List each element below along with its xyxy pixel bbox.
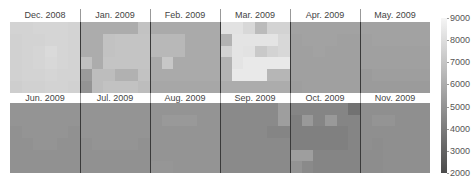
heatmap-cell (220, 150, 232, 162)
heatmap-cell (348, 103, 360, 115)
heatmap-cell (243, 103, 255, 115)
heatmap-cell (267, 126, 279, 138)
heatmap-cell (80, 115, 92, 127)
heatmap-cell (150, 46, 162, 58)
heatmap-cell (127, 115, 139, 127)
heatmap-cell (243, 150, 255, 162)
heatmap-cell (57, 81, 69, 93)
heatmap-cell (197, 161, 209, 173)
heatmap-cell (407, 81, 419, 93)
heatmap-cell (372, 57, 384, 69)
heatmap-cell (10, 46, 22, 58)
heatmap-cell (395, 81, 407, 93)
panel-separator (150, 22, 151, 93)
heatmap-cell (197, 138, 209, 150)
heatmap-cell (243, 81, 255, 93)
heatmap-cell (383, 34, 395, 46)
heatmap-cell (103, 103, 115, 115)
heatmap-cell (325, 150, 337, 162)
heatmap-cell (138, 69, 150, 81)
heatmap-cell (325, 115, 337, 127)
heatmap-cell (33, 115, 45, 127)
heatmap-cell (372, 126, 384, 138)
heatmap-cell (150, 138, 162, 150)
heatmap-cell (418, 126, 430, 138)
heatmap-cell (138, 150, 150, 162)
heatmap-cell (45, 69, 57, 81)
heatmap-cell (302, 57, 314, 69)
heatmap-cell (360, 69, 372, 81)
heatmap-panel: Jan. 2009 (80, 9, 150, 93)
heatmap-cell (150, 161, 162, 173)
heatmap-cell (313, 22, 325, 34)
heatmap-cell (185, 57, 197, 69)
heatmap-grid (150, 103, 220, 173)
heatmap-cell (57, 46, 69, 58)
heatmap-cell (267, 46, 279, 58)
heatmap-cell (173, 69, 185, 81)
heatmap-cell (127, 150, 139, 162)
heatmap-cell (372, 115, 384, 127)
heatmap-cell (138, 161, 150, 173)
heatmap-cell (337, 138, 349, 150)
heatmap-cell (80, 22, 92, 34)
heatmap-panel: Nov. 2009 (360, 93, 430, 173)
heatmap-cell (232, 69, 244, 81)
heatmap-cell (115, 103, 127, 115)
heatmap-cell (337, 115, 349, 127)
heatmap-cell (57, 69, 69, 81)
heatmap-cell (407, 22, 419, 34)
heatmap-cell (197, 57, 209, 69)
heatmap-cell (103, 138, 115, 150)
heatmap-cell (232, 81, 244, 93)
heatmap-cell (173, 81, 185, 93)
colorbar-tick (447, 62, 449, 63)
colorbar (441, 18, 447, 173)
heatmap-cell (243, 126, 255, 138)
heatmap-cell (220, 69, 232, 81)
heatmap-cell (103, 115, 115, 127)
heatmap-cell (80, 138, 92, 150)
heatmap-cell (68, 161, 80, 173)
heatmap-cell (407, 150, 419, 162)
heatmap-cell (208, 57, 220, 69)
heatmap-cell (162, 115, 174, 127)
heatmap-cell (197, 150, 209, 162)
heatmap-cell (348, 46, 360, 58)
heatmap-cell (383, 81, 395, 93)
heatmap-cell (325, 46, 337, 58)
heatmap-cell (162, 150, 174, 162)
colorbar-tick-label: 8000 (450, 35, 470, 45)
heatmap-cell (150, 22, 162, 34)
heatmap-cell (208, 81, 220, 93)
heatmap-cell (68, 57, 80, 69)
colorbar-tick-label: 5000 (450, 102, 470, 112)
heatmap-cell (68, 34, 80, 46)
heatmap-cell (185, 115, 197, 127)
heatmap-cell (290, 57, 302, 69)
heatmap-cell (243, 69, 255, 81)
heatmap-cell (57, 126, 69, 138)
heatmap-cell (22, 161, 34, 173)
panel-title: Mar. 2009 (220, 9, 290, 22)
heatmap-cell (197, 22, 209, 34)
heatmap-cell (360, 57, 372, 69)
heatmap-grid (10, 103, 80, 173)
heatmap-cell (302, 150, 314, 162)
heatmap-cell (267, 161, 279, 173)
panel-title: Jan. 2009 (80, 9, 150, 22)
heatmap-panel: Feb. 2009 (150, 9, 220, 93)
heatmap-cell (173, 126, 185, 138)
heatmap-cell (208, 22, 220, 34)
panel-separator (80, 22, 81, 93)
heatmap-cell (45, 138, 57, 150)
heatmap-cell (185, 161, 197, 173)
heatmap-cell (220, 46, 232, 58)
heatmap-cell (232, 103, 244, 115)
heatmap-cell (45, 150, 57, 162)
heatmap-grid (290, 22, 360, 93)
heatmap-cell (10, 69, 22, 81)
heatmap-cell (33, 46, 45, 58)
heatmap-cell (267, 150, 279, 162)
heatmap-cell (278, 34, 290, 46)
